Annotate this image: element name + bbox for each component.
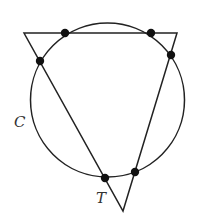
intersection-point — [147, 29, 155, 37]
circle-c — [31, 23, 185, 177]
triangle-t — [24, 33, 177, 211]
intersection-point — [167, 51, 175, 59]
circle-label: C — [14, 113, 26, 131]
intersection-point — [36, 57, 44, 65]
intersection-point — [61, 29, 69, 37]
triangle-label: T — [96, 189, 107, 207]
intersection-point — [131, 168, 139, 176]
circle-triangle-diagram: C T — [0, 0, 200, 218]
intersection-point — [101, 174, 109, 182]
